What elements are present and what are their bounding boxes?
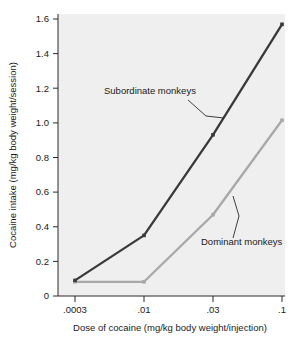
x-tick-label: .1 bbox=[278, 304, 286, 315]
y-tick-label: 0.6 bbox=[36, 186, 49, 197]
x-axis-title: Dose of cocaine (mg/kg body weight/injec… bbox=[73, 322, 267, 333]
y-tick-label: 1.0 bbox=[36, 117, 49, 128]
y-tick-label: 0 bbox=[44, 290, 49, 301]
x-tick-label: .01 bbox=[137, 304, 150, 315]
y-tick-label: 0.4 bbox=[36, 221, 49, 232]
x-tick-label: .0003 bbox=[63, 304, 87, 315]
y-axis-title: Cocaine intake (mg/kg body weight/sessio… bbox=[7, 62, 18, 248]
y-tick-label: 1.2 bbox=[36, 83, 49, 94]
y-tick-label: 0.8 bbox=[36, 152, 49, 163]
annotation-dominant-label: Dominant monkeys bbox=[201, 236, 283, 247]
chart-figure: 0 0.2 0.4 0.6 0.8 1.0 1.2 1.4 1.6 .0003 … bbox=[0, 0, 306, 341]
x-axis-ticks bbox=[75, 296, 282, 302]
y-tick-label: 1.4 bbox=[36, 48, 49, 59]
x-axis-tick-labels: .0003 .01 .03 .1 bbox=[63, 304, 286, 315]
annotation-subordinate-label: Subordinate monkeys bbox=[104, 85, 196, 96]
line-chart: 0 0.2 0.4 0.6 0.8 1.0 1.2 1.4 1.6 .0003 … bbox=[0, 0, 306, 341]
y-axis-ticks bbox=[53, 19, 58, 296]
x-tick-label: .03 bbox=[206, 304, 219, 315]
y-axis-tick-labels: 0 0.2 0.4 0.6 0.8 1.0 1.2 1.4 1.6 bbox=[36, 13, 49, 301]
y-tick-label: 0.2 bbox=[36, 256, 49, 267]
y-tick-label: 1.6 bbox=[36, 13, 49, 24]
